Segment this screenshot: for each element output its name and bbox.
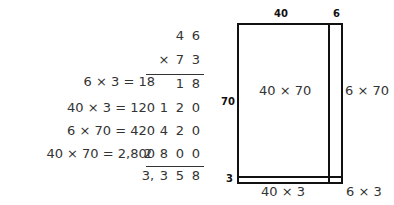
multiplier-digit: 7 — [172, 52, 188, 67]
rect-horizontal-divider — [237, 176, 343, 178]
partial-digit: 0 — [188, 123, 204, 138]
multiplicand-digit: 6 — [188, 28, 204, 43]
partial-digit: 1 — [156, 100, 172, 115]
partial-digit: 2 — [172, 100, 188, 115]
times-sign: × — [156, 52, 172, 67]
equation-6x3: 6 × 3 = 18 — [0, 74, 155, 89]
partial-digit: 8 — [156, 146, 172, 161]
result-digit: 5 — [172, 168, 188, 183]
equation-6x70: 6 × 70 = 420 — [0, 123, 155, 138]
side-label-3: 3 — [226, 173, 233, 184]
side-label-70: 70 — [221, 96, 235, 107]
equation-40x3: 40 × 3 = 120 — [0, 100, 155, 115]
top-label-6: 6 — [333, 8, 340, 19]
rect-vertical-divider — [328, 23, 330, 184]
partial-digit: 0 — [188, 146, 204, 161]
partial-digit: 4 — [156, 123, 172, 138]
multiplicand-digit: 4 — [172, 28, 188, 43]
equation-40x70: 40 × 70 = 2,800 — [0, 146, 155, 161]
divider-line — [146, 74, 204, 75]
partial-digit: 2 — [172, 123, 188, 138]
multiplier-digit: 3 — [188, 52, 204, 67]
partial-digit: 0 — [188, 100, 204, 115]
result-digit: 3 — [156, 168, 172, 183]
partial-digit: 8 — [188, 76, 204, 91]
result-digit: 3, — [140, 168, 156, 183]
cell-6x3: 6 × 3 — [346, 184, 382, 199]
partial-digit: 0 — [172, 146, 188, 161]
partial-digit: 2 — [140, 146, 156, 161]
divider-line — [146, 166, 204, 167]
result-digit: 8 — [188, 168, 204, 183]
rect-left-edge — [237, 23, 239, 184]
cell-6x70: 6 × 70 — [345, 83, 389, 98]
cell-40x3: 40 × 3 — [261, 184, 305, 199]
top-label-40: 40 — [274, 8, 288, 19]
partial-digit: 1 — [172, 76, 188, 91]
cell-40x70: 40 × 70 — [259, 83, 311, 98]
rect-right-edge — [341, 23, 343, 184]
